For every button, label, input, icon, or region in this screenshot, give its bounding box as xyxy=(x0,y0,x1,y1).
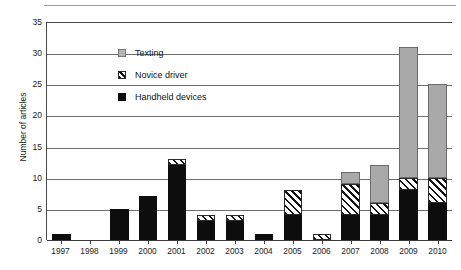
x-tick-2000: 2000 xyxy=(133,241,162,263)
legend-label-novice-driver: Novice driver xyxy=(135,70,188,80)
bar-segment-novice-2009 xyxy=(399,178,418,190)
x-axis-tick-labels: 1997 1998 1999 2000 2001 2002 2003 2004 xyxy=(46,241,452,263)
bar-slot-2010[interactable] xyxy=(423,23,452,240)
top-divider-rule xyxy=(44,5,456,6)
bar-segment-handheld-2010 xyxy=(428,203,447,240)
bar-slot-1998[interactable] xyxy=(76,23,105,240)
bar-stack-2005 xyxy=(284,190,303,240)
bar-stack-1999 xyxy=(110,209,129,240)
x-tick-1997: 1997 xyxy=(46,241,75,263)
legend-item-texting[interactable]: Texting xyxy=(118,42,278,64)
x-tick-label-2002: 2002 xyxy=(191,247,220,256)
x-tick-label-2008: 2008 xyxy=(365,247,394,256)
x-tick-label-2000: 2000 xyxy=(133,247,162,256)
x-tick-label-1999: 1999 xyxy=(104,247,133,256)
legend-swatch-handheld-devices-icon xyxy=(118,93,126,101)
x-tick-mark xyxy=(409,241,410,244)
y-axis-tick-labels: 35 30 25 20 15 10 5 0 Number of articles xyxy=(0,22,42,240)
x-tick-2008: 2008 xyxy=(365,241,394,263)
x-tick-label-2006: 2006 xyxy=(307,247,336,256)
legend-label-handheld-devices: Handheld devices xyxy=(135,92,207,102)
bar-stack-2009 xyxy=(399,47,418,240)
x-tick-1999: 1999 xyxy=(104,241,133,263)
x-tick-2004: 2004 xyxy=(249,241,278,263)
bar-stack-2006 xyxy=(313,234,332,240)
chart-legend: Texting Novice driver Handheld devices xyxy=(118,42,278,108)
bar-segment-handheld-2001 xyxy=(168,165,187,240)
x-tick-2003: 2003 xyxy=(220,241,249,263)
x-tick-2010: 2010 xyxy=(423,241,452,263)
x-tick-label-2001: 2001 xyxy=(162,247,191,256)
legend-item-novice-driver[interactable]: Novice driver xyxy=(118,64,278,86)
bar-slot-2008[interactable] xyxy=(365,23,394,240)
x-tick-2001: 2001 xyxy=(162,241,191,263)
x-tick-2005: 2005 xyxy=(278,241,307,263)
figure-container: 35 30 25 20 15 10 5 0 Number of articles xyxy=(0,0,461,270)
x-tick-1998: 1998 xyxy=(75,241,104,263)
y-tick-35: 35 xyxy=(2,18,42,27)
bar-segment-novice-2010 xyxy=(428,178,447,203)
bar-segment-texting-2010 xyxy=(428,84,447,177)
x-tick-label-2005: 2005 xyxy=(278,247,307,256)
bar-stack-2000 xyxy=(139,196,158,240)
x-tick-mark xyxy=(148,241,149,244)
bar-segment-handheld-2002 xyxy=(197,221,216,240)
legend-swatch-novice-driver-icon xyxy=(118,71,126,79)
bar-stack-1997 xyxy=(52,234,71,240)
bar-segment-novice-2007 xyxy=(341,184,360,215)
bar-segment-handheld-2003 xyxy=(226,221,245,240)
bar-segment-texting-2008 xyxy=(370,165,389,202)
bar-segment-handheld-2005 xyxy=(284,215,303,240)
bar-slot-2006[interactable] xyxy=(307,23,336,240)
bar-slot-1997[interactable] xyxy=(47,23,76,240)
x-tick-mark xyxy=(380,241,381,244)
x-tick-2009: 2009 xyxy=(394,241,423,263)
y-tick-5: 5 xyxy=(2,205,42,214)
bar-segment-texting-2009 xyxy=(399,47,418,178)
x-tick-label-2003: 2003 xyxy=(220,247,249,256)
x-tick-label-2010: 2010 xyxy=(423,247,452,256)
bar-segment-handheld-2000 xyxy=(139,196,158,240)
x-tick-label-1997: 1997 xyxy=(46,247,75,256)
x-tick-2007: 2007 xyxy=(336,241,365,263)
x-tick-label-2009: 2009 xyxy=(394,247,423,256)
x-tick-mark xyxy=(90,241,91,244)
x-tick-mark xyxy=(61,241,62,244)
legend-item-handheld-devices[interactable]: Handheld devices xyxy=(118,86,278,108)
x-tick-mark xyxy=(293,241,294,244)
legend-swatch-texting-icon xyxy=(118,49,126,57)
x-tick-mark xyxy=(177,241,178,244)
bar-slot-2009[interactable] xyxy=(394,23,423,240)
x-tick-mark xyxy=(235,241,236,244)
bar-segment-handheld-2009 xyxy=(399,190,418,240)
y-tick-0: 0 xyxy=(2,236,42,245)
bar-segment-novice-2008 xyxy=(370,203,389,215)
x-tick-2002: 2002 xyxy=(191,241,220,263)
x-tick-label-2004: 2004 xyxy=(249,247,278,256)
bar-stack-2003 xyxy=(226,215,245,240)
x-tick-mark xyxy=(438,241,439,244)
bar-stack-2007 xyxy=(341,172,360,240)
x-tick-mark xyxy=(264,241,265,244)
bar-segment-handheld-2008 xyxy=(370,215,389,240)
bar-segment-handheld-1997 xyxy=(52,234,71,240)
bar-segment-handheld-1999 xyxy=(110,209,129,240)
x-tick-mark xyxy=(206,241,207,244)
bar-slot-2007[interactable] xyxy=(336,23,365,240)
x-tick-mark xyxy=(351,241,352,244)
bar-segment-texting-2007 xyxy=(341,172,360,184)
x-tick-mark xyxy=(322,241,323,244)
bar-segment-handheld-2007 xyxy=(341,215,360,240)
x-tick-label-1998: 1998 xyxy=(75,247,104,256)
bar-slot-2005[interactable] xyxy=(278,23,307,240)
bar-stack-2001 xyxy=(168,159,187,240)
x-tick-mark xyxy=(119,241,120,244)
bar-stack-2004 xyxy=(255,234,274,240)
legend-label-texting: Texting xyxy=(135,48,164,58)
bar-segment-novice-2005 xyxy=(284,190,303,215)
x-tick-label-2007: 2007 xyxy=(336,247,365,256)
bar-segment-handheld-2004 xyxy=(255,234,274,240)
bar-stack-2008 xyxy=(370,165,389,240)
bar-segment-novice-2006 xyxy=(313,234,332,240)
plot-area: Texting Novice driver Handheld devices xyxy=(46,22,452,240)
